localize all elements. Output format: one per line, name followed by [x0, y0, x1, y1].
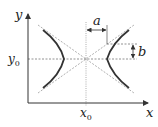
x0-label: x0	[80, 106, 92, 122]
hyperbola-diagram: y x y0 x0 a b	[0, 0, 158, 127]
x0-label-sub: 0	[87, 113, 92, 122]
y-axis-label: y	[14, 7, 23, 22]
a-label: a	[93, 13, 101, 28]
x-axis-label: x	[146, 105, 154, 120]
y0-label-sub: 0	[15, 59, 20, 68]
b-label: b	[138, 44, 146, 59]
y0-label: y0	[7, 52, 20, 68]
